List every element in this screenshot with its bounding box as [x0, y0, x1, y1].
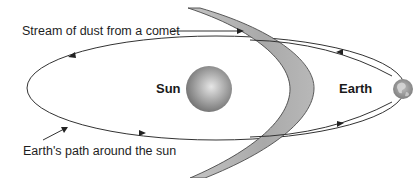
earth-path-label: Earth's path around the sun — [23, 145, 176, 158]
earth-globe — [393, 79, 413, 99]
orbit-arrow-bottom-icon — [139, 130, 146, 136]
sun-sphere — [186, 66, 232, 112]
comet-stream-label: Stream of dust from a comet — [22, 25, 180, 38]
earth-label: Earth — [339, 82, 372, 95]
sun-label: Sun — [156, 82, 181, 95]
